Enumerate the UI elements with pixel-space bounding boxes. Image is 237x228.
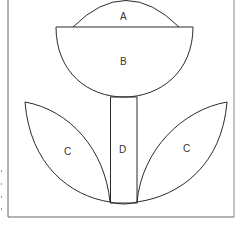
label-c-left: C bbox=[64, 146, 71, 157]
scan-marks bbox=[1, 170, 2, 210]
label-a: A bbox=[120, 11, 127, 22]
frame bbox=[8, 0, 234, 217]
label-d: D bbox=[119, 144, 126, 155]
label-b: B bbox=[120, 56, 127, 67]
flower-diagram: A B C D C bbox=[0, 0, 237, 228]
piece-c-right-leaf bbox=[137, 102, 227, 202]
label-c-right: C bbox=[183, 143, 190, 154]
